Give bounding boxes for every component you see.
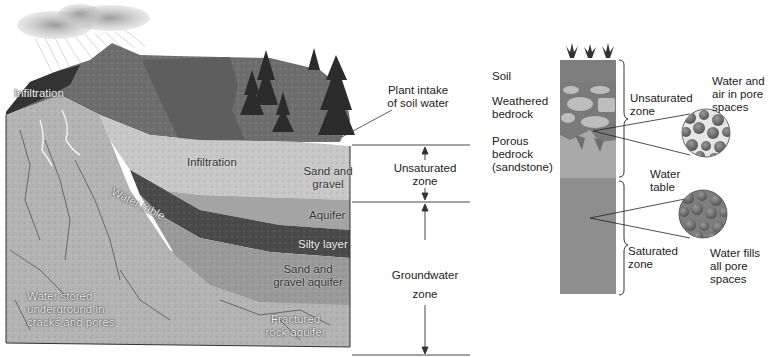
- label-line: bedrock: [492, 148, 553, 161]
- label-line: Saturated: [628, 245, 678, 258]
- label-line: cracks and pores: [27, 316, 115, 329]
- label-line: gravel: [298, 178, 358, 191]
- label-sand-and-gravel: Sand and gravel: [298, 165, 358, 191]
- zone-braces: [619, 60, 628, 295]
- label-line: Sand and: [298, 165, 358, 178]
- label-line: zone: [630, 105, 693, 118]
- label-line: bedrock: [492, 108, 548, 121]
- label-unsaturated-zone-right: Unsaturated zone: [630, 92, 693, 118]
- label-line: Porous: [492, 135, 553, 148]
- label-groundwater-zone: Groundwater zone: [385, 265, 465, 305]
- label-line: rock aquifer: [258, 326, 333, 339]
- label-fractured-rock-aquifer: Fractured rock aquifer: [258, 313, 333, 339]
- label-line: Sand and: [263, 263, 353, 276]
- label-porous-bedrock: Porous bedrock (sandstone): [492, 135, 553, 174]
- label-unsaturated-zone: Unsaturated zone: [385, 162, 465, 188]
- label-weathered-bedrock: Weathered bedrock: [492, 95, 548, 121]
- label-silty-layer: Silty layer: [298, 238, 348, 251]
- label-line: Fractured: [258, 313, 333, 326]
- label-line: Water fills: [710, 247, 760, 260]
- label-line: (sandstone): [492, 161, 553, 174]
- label-line: Plant intake: [373, 84, 463, 97]
- label-water-table-right: Water table: [650, 168, 680, 194]
- label-line: gravel aquifer: [263, 276, 353, 289]
- label-line: air in pore: [712, 88, 765, 101]
- label-plant-intake: Plant intake of soil water: [373, 84, 463, 110]
- label-line: zone: [628, 258, 678, 271]
- label-line: of soil water: [373, 97, 463, 110]
- label-infiltration-surface: Infiltration: [14, 87, 64, 100]
- label-line: zone: [385, 175, 465, 188]
- label-infiltration-subsurface: Infiltration: [187, 156, 237, 169]
- label-sand-gravel-aquifer: Sand and gravel aquifer: [263, 263, 353, 289]
- label-line: zone: [385, 288, 465, 301]
- label-line: Water and: [712, 75, 765, 88]
- soil-column: [560, 43, 616, 294]
- label-saturated-zone: Saturated zone: [628, 245, 678, 271]
- label-water-stored: Water stored underground in cracks and p…: [27, 290, 115, 329]
- label-water-and-air: Water and air in pore spaces: [712, 75, 765, 114]
- label-line: spaces: [712, 101, 765, 114]
- label-line: underground in: [27, 303, 115, 316]
- label-line: all pore: [710, 260, 760, 273]
- label-line: Water: [650, 168, 680, 181]
- label-line: Unsaturated: [385, 162, 465, 175]
- label-line: table: [650, 181, 680, 194]
- label-aquifer: Aquifer: [309, 209, 345, 222]
- label-line: Groundwater: [385, 269, 465, 282]
- pore-circle-saturated: [679, 190, 729, 242]
- label-water-fills: Water fills all pore spaces: [710, 247, 760, 286]
- label-line: Unsaturated: [630, 92, 693, 105]
- label-line: Water stored: [27, 290, 115, 303]
- label-line: spaces: [710, 273, 760, 286]
- label-line: Weathered: [492, 95, 548, 108]
- label-soil: Soil: [492, 70, 511, 83]
